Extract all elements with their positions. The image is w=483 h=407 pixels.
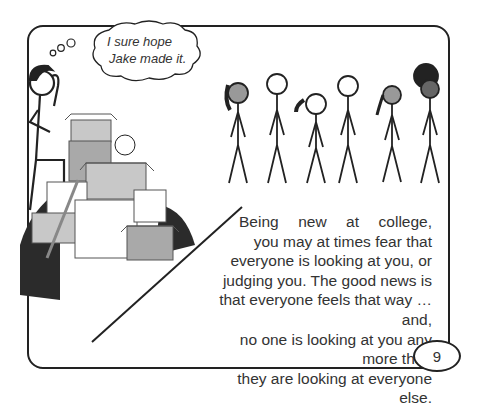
group-of-peers-icon (226, 64, 439, 183)
moving-boxes-icon (32, 114, 179, 260)
thought-bubble-text: I sure hope Jake made it. (107, 33, 207, 67)
page-number-badge: 9 (413, 340, 461, 372)
body-text: Being new at college, you may at times f… (217, 212, 432, 407)
